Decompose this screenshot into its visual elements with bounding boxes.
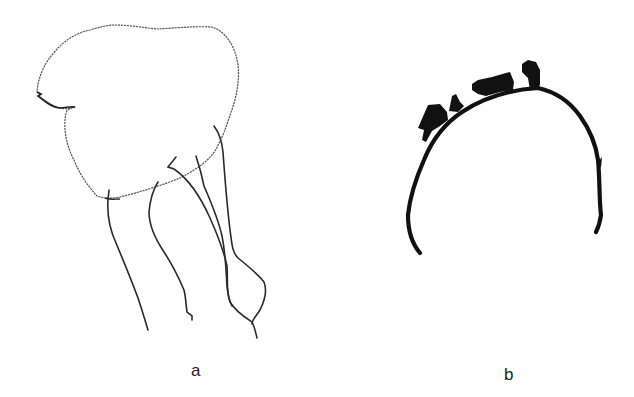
panel-b-drawing [408,60,602,253]
panel-a-notch [37,92,75,108]
panel-a-leg-3 [168,157,257,338]
panel-a-leg-1 [108,190,148,330]
panel-a-leg-2 [149,182,192,320]
panel-label-b: b [504,366,513,383]
figure: a b [0,0,634,397]
figure-drawing [0,0,634,397]
panel-label-a: a [191,362,200,379]
panel-a-leg-5 [214,126,266,324]
panel-b-projection-4 [522,60,540,90]
panel-a-body-outline [37,25,239,198]
panel-a-drawing [37,25,266,338]
panel-b-projection-2 [449,94,464,112]
panel-a-leg-4 [196,156,232,306]
panel-b-projection-1 [418,104,448,142]
